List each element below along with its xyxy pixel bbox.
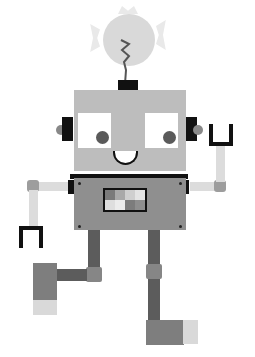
left-foot <box>33 263 57 300</box>
right-shin <box>148 279 160 321</box>
chest-screen <box>103 188 147 212</box>
bulb-glow-left <box>86 24 100 52</box>
bolt-icon <box>78 182 81 185</box>
bolt-icon <box>179 225 182 228</box>
screen-cell <box>115 200 125 210</box>
screen-cell <box>135 190 145 200</box>
screen-cell <box>125 200 135 210</box>
right-thigh <box>148 230 160 265</box>
left-upper-arm <box>34 182 70 191</box>
bolt-icon <box>78 225 81 228</box>
screen-cell <box>125 190 135 200</box>
screen-cell <box>105 190 115 200</box>
right-claw-icon <box>209 124 233 146</box>
bulb-glow-right <box>156 20 170 50</box>
filament-icon <box>112 36 142 86</box>
left-forearm <box>29 190 38 226</box>
bulb-glow-top <box>118 6 138 14</box>
left-knee <box>86 267 102 282</box>
screen-cell <box>115 190 125 200</box>
bolt-icon <box>179 182 182 185</box>
left-shin <box>55 269 87 281</box>
left-claw-icon <box>19 226 43 248</box>
right-toe <box>183 320 198 344</box>
right-foot <box>146 320 184 345</box>
right-forearm <box>216 146 225 182</box>
right-ear-knob <box>193 125 203 135</box>
right-knee <box>146 264 162 279</box>
left-ear <box>62 117 73 141</box>
left-pupil <box>96 131 109 144</box>
right-pupil <box>163 131 176 144</box>
left-toe <box>33 300 57 315</box>
screen-cell <box>105 200 115 210</box>
screen-cell <box>135 200 145 210</box>
left-thigh <box>88 230 100 270</box>
